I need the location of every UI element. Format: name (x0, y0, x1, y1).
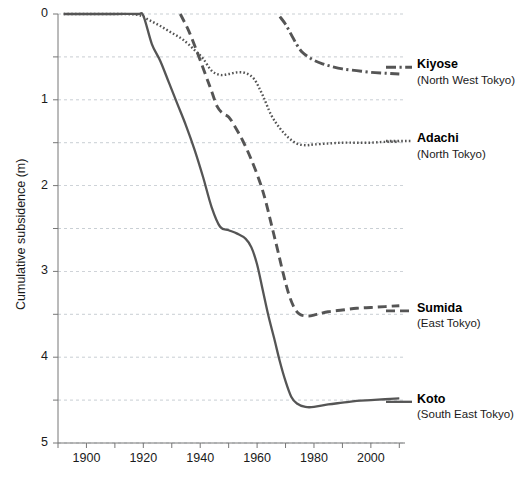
y-tick-label: 3 (18, 263, 48, 277)
series-region: (East Tokyo) (417, 316, 481, 330)
legend-line-stubs (386, 67, 412, 402)
x-tick-label: 1980 (289, 451, 339, 465)
y-tick-label: 1 (18, 92, 48, 106)
x-tick-label: 1900 (61, 451, 111, 465)
x-axis-ticks (58, 443, 399, 448)
series-line-sumida (180, 14, 399, 316)
y-axis-ticks (53, 14, 58, 443)
y-tick-label: 0 (18, 6, 48, 20)
data-series-paths (64, 13, 400, 407)
series-name: Adachi (417, 131, 486, 147)
series-line-koto (64, 13, 400, 407)
series-line-kiyose (280, 17, 399, 74)
series-label-sumida: Sumida(East Tokyo) (417, 301, 481, 331)
series-region: (North West Tokyo) (417, 73, 515, 87)
x-tick-label: 1960 (232, 451, 282, 465)
x-tick-label: 1940 (175, 451, 225, 465)
series-line-adachi (64, 14, 400, 145)
y-tick-label: 2 (18, 178, 48, 192)
series-region: (South East Tokyo) (417, 407, 514, 421)
series-label-koto: Koto(South East Tokyo) (417, 392, 514, 422)
series-name: Koto (417, 392, 514, 408)
figure-container: Cumulative subsidence (m) 19001920194019… (0, 0, 527, 483)
y-tick-label: 4 (18, 349, 48, 363)
series-name: Sumida (417, 301, 481, 317)
series-name: Kiyose (417, 57, 515, 73)
x-tick-label: 1920 (118, 451, 168, 465)
series-region: (North Tokyo) (417, 147, 486, 161)
series-label-adachi: Adachi(North Tokyo) (417, 131, 486, 161)
series-label-kiyose: Kiyose(North West Tokyo) (417, 57, 515, 87)
figure-caption (36, 472, 506, 482)
x-tick-label: 2000 (346, 451, 396, 465)
gridlines (58, 14, 405, 443)
y-tick-label: 5 (18, 435, 48, 449)
